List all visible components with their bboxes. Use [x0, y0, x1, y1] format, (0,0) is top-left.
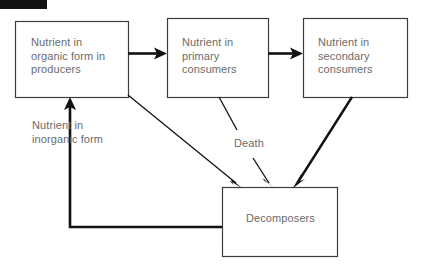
redaction-bar — [0, 0, 47, 9]
arrow-primary-to-secondary — [268, 48, 303, 60]
diagram-graphics — [0, 0, 422, 268]
arrow-producers-to-primary — [128, 48, 167, 60]
box-primary-consumers — [168, 19, 269, 98]
box-producers — [16, 22, 129, 98]
diagram-canvas: Nutrient in organic form in producers Nu… — [0, 0, 422, 268]
arrow-decomposers-to-producers — [64, 97, 222, 227]
arrow-primary-to-decomposers — [219, 97, 275, 189]
box-secondary-consumers — [304, 19, 408, 98]
box-decomposers — [223, 188, 338, 257]
arrow-secondary-to-decomposers — [293, 97, 353, 189]
